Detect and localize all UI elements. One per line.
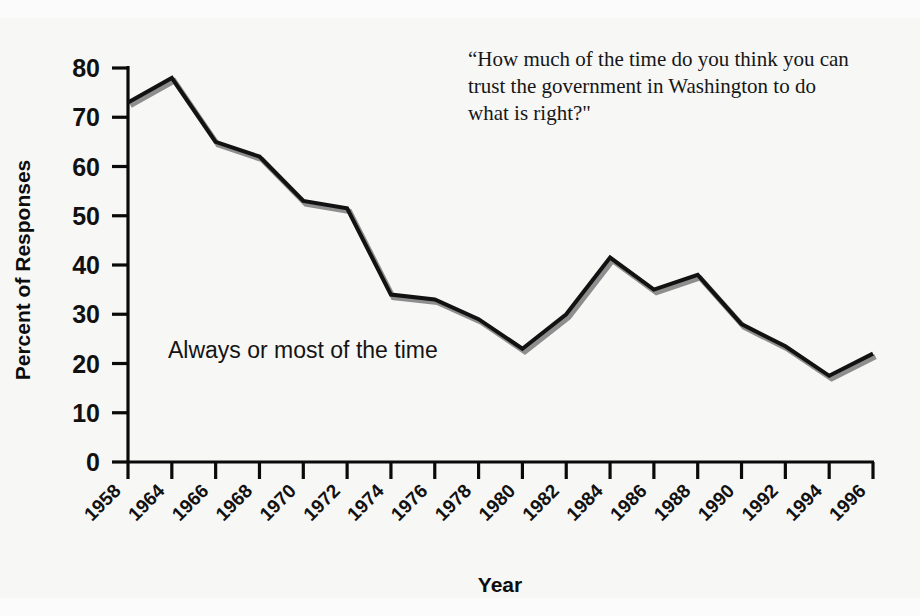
x-tick-label-1970: 1970 — [255, 480, 300, 525]
question-quote-line-3: what is right?" — [468, 101, 591, 125]
x-tick-label-1984: 1984 — [562, 480, 607, 525]
x-tick-label-1994: 1994 — [781, 480, 826, 525]
question-quote: “How much of the time do you think you c… — [468, 47, 849, 125]
y-tick-label-30: 30 — [72, 300, 100, 328]
x-tick-label-1964: 1964 — [124, 480, 169, 525]
x-tick-label-1958: 1958 — [80, 480, 125, 525]
line-chart: 01020304050607080 1958196419661968197019… — [0, 0, 920, 616]
x-axis-ticks — [128, 462, 873, 479]
x-axis-tick-labels: 1958196419661968197019721974197619781980… — [80, 480, 870, 525]
series-annotation-label: Always or most of the time — [168, 337, 438, 363]
x-tick-label-1978: 1978 — [431, 480, 476, 525]
y-axis-ticks: 01020304050607080 — [72, 54, 128, 476]
y-tick-label-10: 10 — [72, 399, 100, 427]
y-tick-label-60: 60 — [72, 153, 100, 181]
x-tick-label-1966: 1966 — [168, 480, 213, 525]
chart-svg: 01020304050607080 1958196419661968197019… — [0, 0, 920, 616]
y-tick-label-80: 80 — [72, 54, 100, 82]
x-tick-label-1976: 1976 — [387, 480, 432, 525]
y-tick-label-50: 50 — [72, 202, 100, 230]
x-tick-label-1986: 1986 — [606, 480, 651, 525]
x-tick-label-1990: 1990 — [694, 480, 739, 525]
x-tick-label-1974: 1974 — [343, 480, 388, 525]
x-axis-title: Year — [478, 573, 522, 596]
y-tick-label-40: 40 — [72, 251, 100, 279]
x-tick-label-1968: 1968 — [212, 480, 257, 525]
x-tick-label-1980: 1980 — [474, 480, 519, 525]
chart-page: 01020304050607080 1958196419661968197019… — [0, 0, 920, 616]
y-tick-label-70: 70 — [72, 103, 100, 131]
x-tick-label-1992: 1992 — [737, 480, 782, 525]
y-tick-label-20: 20 — [72, 350, 100, 378]
x-tick-label-1988: 1988 — [650, 480, 695, 525]
question-quote-line-1: “How much of the time do you think you c… — [468, 47, 849, 71]
x-tick-label-1996: 1996 — [825, 480, 870, 525]
question-quote-line-2: trust the government in Washington to do — [468, 74, 816, 98]
y-axis-title: Percent of Responses — [11, 160, 34, 381]
y-tick-label-0: 0 — [86, 448, 100, 476]
x-tick-label-1982: 1982 — [518, 480, 563, 525]
x-tick-label-1972: 1972 — [299, 480, 344, 525]
